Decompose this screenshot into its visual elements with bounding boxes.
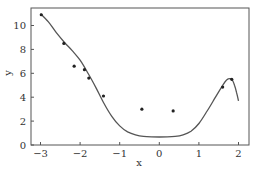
fitted-curve-line (41, 14, 239, 137)
x-tick-label: 0 (156, 148, 162, 159)
data-point (83, 68, 86, 71)
y-tick-label: 10 (13, 20, 26, 31)
data-point (40, 13, 43, 16)
data-point (230, 78, 233, 81)
data-point (73, 65, 76, 68)
data-point (140, 108, 143, 111)
y-tick-label: 6 (20, 68, 26, 79)
chart-canvas: −3−2−1012 0246810 x y (0, 0, 257, 175)
data-point (221, 85, 224, 88)
data-point (62, 42, 65, 45)
x-axis-label: x (136, 157, 142, 168)
x-tick-label: 2 (235, 148, 241, 159)
y-axis-label: y (2, 70, 13, 77)
x-tick-label: −2 (73, 148, 88, 159)
y-tick-label: 2 (20, 116, 26, 127)
x-tick-label: −1 (112, 148, 127, 159)
plot-frame (31, 8, 249, 145)
x-tick-label: 1 (196, 148, 202, 159)
x-tick-label: −3 (33, 148, 48, 159)
y-tick-label: 4 (20, 92, 26, 103)
scatter-points (40, 13, 234, 112)
data-point (172, 109, 175, 112)
data-point (102, 94, 105, 97)
data-point (87, 76, 90, 79)
y-tick-label: 8 (20, 44, 26, 55)
y-tick-label: 0 (20, 140, 26, 151)
